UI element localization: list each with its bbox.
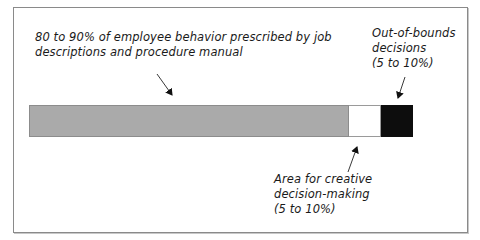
arrow-to-prescribed-icon xyxy=(157,74,172,95)
arrow-to-out-of-bounds-icon xyxy=(398,77,405,98)
arrow-to-creative-icon xyxy=(348,147,357,172)
arrows-layer xyxy=(0,0,480,240)
